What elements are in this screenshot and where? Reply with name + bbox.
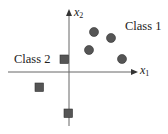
y-axis-arrow-icon <box>66 9 72 16</box>
class1-points <box>85 28 127 64</box>
class2-point <box>64 109 73 118</box>
class1-point <box>107 34 116 43</box>
x-axis-label: x1 <box>140 64 149 78</box>
class1-point <box>90 28 99 37</box>
class2-label: Class 2 <box>14 53 50 66</box>
class1-point <box>85 46 94 55</box>
class2-point <box>60 55 69 64</box>
class1-label: Class 1 <box>125 20 161 33</box>
y-axis-label: x2 <box>74 6 83 20</box>
classification-diagram: x2 x1 Class 1 Class 2 <box>0 0 168 134</box>
x-axis-arrow-icon <box>131 69 138 75</box>
class1-point <box>118 55 127 64</box>
class2-point <box>35 83 44 92</box>
